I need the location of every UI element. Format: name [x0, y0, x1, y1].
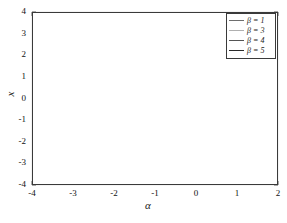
legend-item-2[interactable]: β = 3 [229, 26, 273, 35]
legend[interactable]: β = 1β = 3β = 4β = 5 [226, 13, 276, 59]
bifurcation-figure: 43210-1-2-3-4 -4-3-2-1012 x α β = 1β = 3… [0, 0, 287, 223]
legend-item-3[interactable]: β = 4 [229, 36, 273, 45]
y-tick-label: -2 [4, 137, 26, 146]
y-tick-label: 3 [4, 29, 26, 38]
y-tick-label: 1 [4, 72, 26, 81]
y-axis-label: x [4, 83, 16, 105]
legend-line-swatch [229, 47, 244, 54]
y-tick-label: 4 [4, 7, 26, 16]
y-tick-label: -1 [4, 115, 26, 124]
legend-item-1[interactable]: β = 1 [229, 16, 273, 25]
legend-item-label: β = 3 [247, 27, 264, 35]
x-tick-label: -1 [144, 189, 166, 198]
legend-line-swatch [229, 17, 244, 24]
x-tick-label: -4 [21, 189, 43, 198]
x-tick-label: -3 [62, 189, 84, 198]
x-tick-label: 0 [185, 189, 207, 198]
x-tick-label: 1 [226, 189, 248, 198]
legend-item-4[interactable]: β = 5 [229, 46, 273, 55]
x-axis-label: α [133, 199, 163, 211]
x-tick-label: 2 [267, 189, 287, 198]
legend-line-swatch [229, 27, 244, 34]
y-tick-label: 2 [4, 50, 26, 59]
y-tick-label: -3 [4, 158, 26, 167]
y-tick-label: -4 [4, 180, 26, 189]
legend-item-label: β = 4 [247, 37, 264, 45]
x-tick-label: -2 [103, 189, 125, 198]
legend-item-label: β = 1 [247, 17, 264, 25]
legend-item-label: β = 5 [247, 47, 264, 55]
legend-line-swatch [229, 37, 244, 44]
